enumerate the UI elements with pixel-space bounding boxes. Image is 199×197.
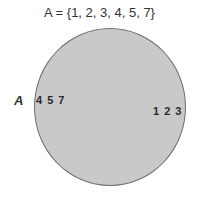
- set-definition-title: A = {1, 2, 3, 4, 5, 7}: [0, 5, 199, 20]
- elements-right-group: 1 2 3: [153, 105, 182, 117]
- elements-left-group: 4 5 7: [36, 94, 65, 106]
- set-a-label: A: [14, 93, 23, 108]
